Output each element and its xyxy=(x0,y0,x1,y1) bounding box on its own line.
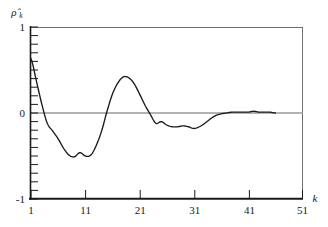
y-tick-label-0: 0 xyxy=(20,107,26,119)
x-tick-label-21: 21 xyxy=(135,204,146,216)
x-tick-label-51: 51 xyxy=(297,204,308,216)
y-axis-title-subscript: k xyxy=(19,11,23,20)
acf-chart-svg: 1 0 -1 1 11 21 31 41 51 ρ̂ k k xyxy=(0,0,328,227)
x-tick-label-41: 41 xyxy=(244,204,255,216)
y-axis-minor-ticks xyxy=(31,27,38,199)
x-tick-label-31: 31 xyxy=(189,204,200,216)
y-tick-label-minus-1: -1 xyxy=(16,193,25,205)
x-tick-label-1: 1 xyxy=(28,204,34,216)
acf-figure: 1 0 -1 1 11 21 31 41 51 ρ̂ k k xyxy=(0,0,328,227)
y-tick-label-1: 1 xyxy=(20,21,26,33)
x-axis-title: k xyxy=(313,192,319,204)
x-tick-label-11: 11 xyxy=(80,204,91,216)
